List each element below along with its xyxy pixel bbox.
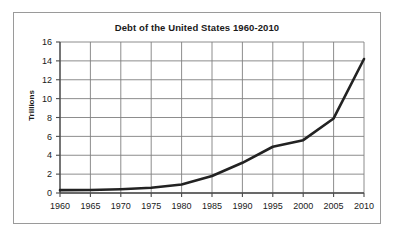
svg-text:14: 14 — [42, 56, 52, 66]
chart-figure-frame: Debt of the United States 1960-2010 Tril… — [13, 12, 381, 224]
svg-text:1970: 1970 — [111, 201, 131, 211]
svg-text:2000: 2000 — [293, 201, 313, 211]
svg-text:2010: 2010 — [354, 201, 374, 211]
chart-plot-area: 0246810121416 19601965197019751980198519… — [14, 13, 382, 225]
svg-text:12: 12 — [42, 75, 52, 85]
y-tick-labels: 0246810121416 — [42, 37, 52, 198]
svg-text:0: 0 — [47, 188, 52, 198]
svg-text:1965: 1965 — [80, 201, 100, 211]
svg-text:8: 8 — [47, 113, 52, 123]
svg-text:1985: 1985 — [202, 201, 222, 211]
svg-text:1995: 1995 — [263, 201, 283, 211]
svg-text:10: 10 — [42, 94, 52, 104]
svg-text:1960: 1960 — [50, 201, 70, 211]
svg-text:6: 6 — [47, 132, 52, 142]
svg-text:2005: 2005 — [324, 201, 344, 211]
x-tick-labels: 1960196519701975198019851990199520002005… — [50, 201, 374, 211]
svg-text:1975: 1975 — [141, 201, 161, 211]
svg-text:4: 4 — [47, 150, 52, 160]
svg-text:1980: 1980 — [172, 201, 192, 211]
svg-text:16: 16 — [42, 37, 52, 47]
svg-text:2: 2 — [47, 169, 52, 179]
svg-text:1990: 1990 — [232, 201, 252, 211]
